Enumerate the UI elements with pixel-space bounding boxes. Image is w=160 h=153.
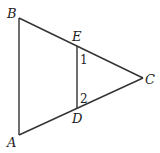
segment-bc (19, 18, 143, 78)
label-e: E (71, 29, 82, 44)
label-angle-2: 2 (80, 92, 88, 106)
label-c: C (145, 72, 155, 87)
label-a: A (6, 135, 16, 150)
label-angle-1: 1 (80, 53, 88, 67)
label-b: B (6, 6, 17, 21)
segment-ac (19, 78, 143, 135)
label-d: D (71, 111, 83, 126)
triangle-diagram: B E 1 C 2 D A (0, 0, 160, 153)
